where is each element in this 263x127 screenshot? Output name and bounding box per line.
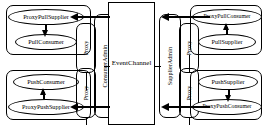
flow-arrow-tl: [70, 13, 78, 21]
supplier-admin-text: SupplierAdmin: [167, 47, 173, 85]
flow-line-br: [168, 106, 210, 108]
event-channel-label: EventChannel: [108, 2, 155, 125]
assoc-line-right-lower-v: [189, 118, 190, 125]
assoc-line-left-upper-v: [86, 73, 87, 90]
flow-line-tl: [77, 16, 110, 18]
consumer-proxy-label-upper: Proxy: [76, 23, 96, 73]
br-internal-arrow-head: [225, 95, 231, 102]
consumer-proxy-text-upper: Proxy: [83, 41, 89, 56]
tr-internal-arrow-head: [223, 23, 229, 30]
tl-internal-arrow-head: [42, 30, 48, 37]
flow-line-tr: [168, 16, 210, 18]
flow-arrow-tr: [161, 13, 169, 21]
node-push-supplier[interactable]: PushSupplier: [198, 74, 258, 90]
event-channel-text: EventChannel: [112, 60, 152, 67]
bl-internal-arrow-head: [40, 88, 46, 95]
node-pull-supplier[interactable]: PullSupplier: [198, 34, 256, 50]
flow-line-bl: [77, 106, 110, 108]
flow-arrow-bl: [70, 103, 78, 111]
node-push-consumer[interactable]: PushConsumer: [13, 74, 79, 90]
assoc-line-supplier-admin: [155, 66, 161, 67]
assoc-line-left-lower-v: [86, 118, 87, 125]
assoc-line-right-upper-v: [189, 55, 190, 73]
assoc-line-consumer-admin: [104, 66, 110, 67]
event-channel-diagram: ProxyPullSupplier PullConsumer PushConsu…: [0, 0, 263, 127]
flow-arrow-br: [161, 103, 169, 111]
